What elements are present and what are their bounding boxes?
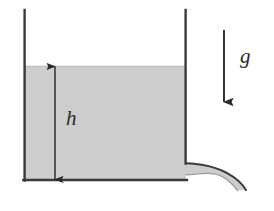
physics-diagram-tank-with-jet: h g (0, 0, 274, 211)
liquid-body (24, 66, 186, 180)
height-label: h (66, 108, 77, 129)
gravity-label: g (240, 46, 251, 67)
liquid-fill-rect (24, 66, 186, 180)
liquid-jet (186, 163, 246, 191)
diagram-canvas (0, 0, 274, 211)
